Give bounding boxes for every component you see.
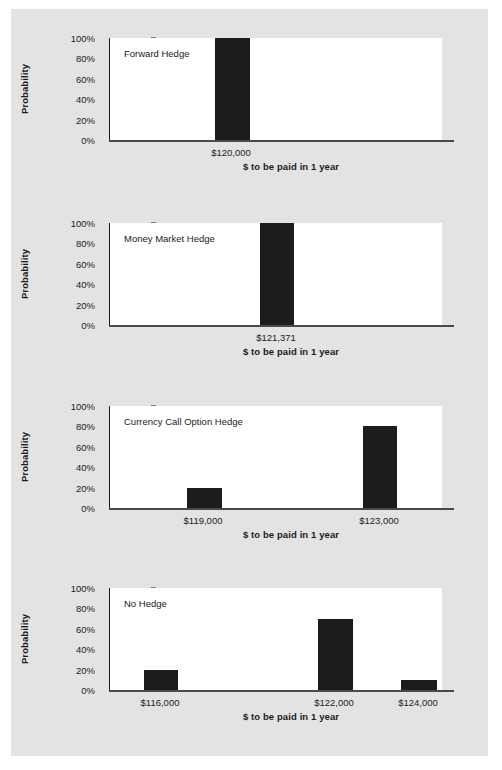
y-axis-ticks: 0%20%40%60%80%100% bbox=[59, 38, 99, 140]
x-tick-label: $116,000 bbox=[141, 697, 180, 708]
x-tick-label: $123,000 bbox=[359, 515, 399, 526]
x-axis-line bbox=[109, 690, 454, 692]
x-axis-line bbox=[109, 508, 454, 510]
y-tick-label: 100% bbox=[71, 401, 95, 412]
x-axis-title: $ to be paid in 1 year bbox=[243, 529, 339, 540]
bar bbox=[187, 488, 222, 508]
bar bbox=[363, 426, 397, 508]
chart-title: Forward Hedge bbox=[124, 48, 189, 59]
y-tick-label: 60% bbox=[76, 623, 95, 634]
y-tick-label: 0% bbox=[81, 503, 95, 514]
chart-title: No Hedge bbox=[124, 598, 167, 609]
y-tick-label: 100% bbox=[71, 218, 95, 229]
y-axis-ticks: 0%20%40%60%80%100% bbox=[59, 406, 99, 508]
x-axis-title: $ to be paid in 1 year bbox=[243, 346, 339, 357]
y-axis-title: Probability bbox=[19, 614, 30, 664]
chart-block-1: Probability0%20%40%60%80%100%Money Marke… bbox=[11, 223, 488, 373]
bar bbox=[401, 680, 437, 690]
y-tick-label: 20% bbox=[76, 299, 95, 310]
chart-title: Currency Call Option Hedge bbox=[124, 416, 243, 427]
chart-block-2: Probability0%20%40%60%80%100%Currency Ca… bbox=[11, 406, 488, 556]
x-axis-line bbox=[109, 325, 454, 327]
y-tick-label: 60% bbox=[76, 258, 95, 269]
y-tick-label: 80% bbox=[76, 238, 95, 249]
y-tick-label: 40% bbox=[76, 94, 95, 105]
bar bbox=[144, 670, 178, 690]
y-axis-title: Probability bbox=[19, 249, 30, 299]
y-tick-label: 40% bbox=[76, 279, 95, 290]
y-tick-label: 0% bbox=[81, 135, 95, 146]
y-tick-label: 80% bbox=[76, 603, 95, 614]
y-tick-label: 20% bbox=[76, 482, 95, 493]
chart-block-3: Probability0%20%40%60%80%100%No Hedge$11… bbox=[11, 588, 488, 738]
x-tick-label: $124,000 bbox=[398, 697, 438, 708]
x-axis-line bbox=[109, 140, 454, 142]
y-tick-label: 40% bbox=[76, 644, 95, 655]
y-axis-title: Probability bbox=[19, 64, 30, 114]
y-tick-label: 40% bbox=[76, 462, 95, 473]
plot-area: No Hedge bbox=[109, 588, 442, 690]
x-axis-title: $ to be paid in 1 year bbox=[243, 711, 339, 722]
plot-area: Currency Call Option Hedge bbox=[109, 406, 442, 508]
figure-panel: Probability0%20%40%60%80%100%Forward Hed… bbox=[11, 9, 488, 756]
x-tick-label: $120,000 bbox=[211, 147, 251, 158]
plot-area: Money Market Hedge bbox=[109, 223, 442, 325]
y-tick-label: 20% bbox=[76, 664, 95, 675]
y-tick-label: 100% bbox=[71, 583, 95, 594]
x-tick-label: $119,000 bbox=[184, 515, 223, 526]
bar bbox=[318, 619, 353, 690]
y-tick-label: 20% bbox=[76, 114, 95, 125]
y-tick-label: 60% bbox=[76, 73, 95, 84]
y-tick-label: 100% bbox=[71, 33, 95, 44]
bar bbox=[260, 223, 294, 325]
bar bbox=[215, 38, 250, 140]
x-tick-label: $122,000 bbox=[314, 697, 354, 708]
y-tick-label: 80% bbox=[76, 53, 95, 64]
y-axis-ticks: 0%20%40%60%80%100% bbox=[59, 588, 99, 690]
y-tick-label: 0% bbox=[81, 320, 95, 331]
x-axis-title: $ to be paid in 1 year bbox=[243, 161, 339, 172]
chart-title: Money Market Hedge bbox=[124, 233, 215, 244]
y-tick-label: 60% bbox=[76, 441, 95, 452]
y-tick-label: 0% bbox=[81, 685, 95, 696]
x-tick-label: $121,371 bbox=[256, 332, 296, 343]
y-axis-title: Probability bbox=[19, 432, 30, 482]
y-axis-ticks: 0%20%40%60%80%100% bbox=[59, 223, 99, 325]
chart-block-0: Probability0%20%40%60%80%100%Forward Hed… bbox=[11, 38, 488, 188]
plot-area: Forward Hedge bbox=[109, 38, 442, 140]
y-tick-label: 80% bbox=[76, 421, 95, 432]
